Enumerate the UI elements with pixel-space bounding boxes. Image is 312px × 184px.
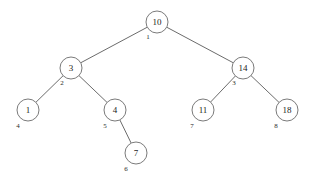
tree-node-7[interactable]: 76 <box>124 142 147 173</box>
node-value-4: 4 <box>113 105 118 115</box>
node-index-label-8: 8 <box>274 122 278 130</box>
node-value-10: 10 <box>153 17 163 27</box>
tree-nodes: 10132143144511718876 <box>16 11 298 173</box>
node-index-label-1: 1 <box>146 33 150 41</box>
node-index-label-7: 7 <box>190 122 194 130</box>
tree-node-3[interactable]: 32 <box>60 57 82 87</box>
tree-edge-10-to-14 <box>167 27 233 62</box>
node-value-1: 1 <box>26 105 31 115</box>
tree-node-1[interactable]: 14 <box>16 99 39 130</box>
tree-edge-14-to-18 <box>251 76 278 102</box>
node-value-14: 14 <box>239 63 249 73</box>
node-index-label-4: 4 <box>16 122 20 130</box>
node-value-3: 3 <box>69 63 74 73</box>
tree-edge-3-to-4 <box>79 76 106 102</box>
tree-node-18[interactable]: 188 <box>274 99 298 130</box>
binary-tree-diagram: 10132143144511718876 <box>0 0 312 184</box>
tree-edge-4-to-7 <box>120 120 131 142</box>
node-index-label-6: 6 <box>124 165 128 173</box>
node-index-label-3: 3 <box>232 79 236 87</box>
node-index-label-5: 5 <box>103 122 107 130</box>
tree-edge-10-to-3 <box>81 27 147 62</box>
tree-edges <box>36 27 278 142</box>
tree-canvas: 10132143144511718876 <box>0 0 312 184</box>
tree-edge-3-to-1 <box>36 76 63 102</box>
tree-node-14[interactable]: 143 <box>232 57 254 87</box>
node-index-label-2: 2 <box>60 79 64 87</box>
tree-node-11[interactable]: 117 <box>190 99 214 130</box>
node-value-7: 7 <box>134 148 139 158</box>
node-value-11: 11 <box>199 105 208 115</box>
tree-node-10[interactable]: 101 <box>146 11 168 41</box>
node-value-18: 18 <box>283 105 293 115</box>
